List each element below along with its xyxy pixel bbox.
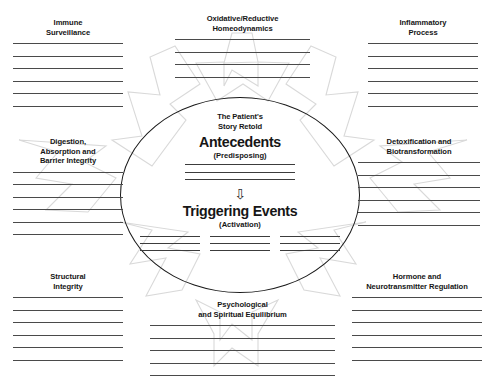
triggering-events-write-in-grid[interactable] xyxy=(120,236,360,257)
write-in-line[interactable] xyxy=(175,39,310,40)
write-in-line[interactable] xyxy=(368,43,478,44)
node-hormone-and-neurotransmitter-regulation: Hormone and Neurotransmitter Regulation xyxy=(352,272,482,361)
write-in-line[interactable] xyxy=(175,64,310,65)
node-title: Hormone and Neurotransmitter Regulation xyxy=(352,272,482,291)
write-in-line[interactable] xyxy=(358,225,480,226)
center-heading-triggering-events: Triggering Events xyxy=(120,203,360,219)
write-in-line[interactable] xyxy=(185,179,295,180)
write-in-line[interactable] xyxy=(13,234,123,235)
node-write-in-lines[interactable] xyxy=(175,39,310,78)
node-title: Structural Integrity xyxy=(13,272,123,291)
write-in-line[interactable] xyxy=(140,243,200,244)
write-in-line[interactable] xyxy=(352,297,482,298)
center-content: The Patient's Story Retold Antecedents (… xyxy=(120,97,360,293)
write-in-line[interactable] xyxy=(150,363,335,364)
center-subheading-activation: (Activation) xyxy=(120,220,360,229)
write-in-line[interactable] xyxy=(150,350,335,351)
write-in-line[interactable] xyxy=(358,212,480,213)
node-title: Oxidative/Reductive Homeodynamics xyxy=(175,14,310,33)
node-inflammatory-process: Inflammatory Process xyxy=(368,18,478,107)
write-in-line[interactable] xyxy=(140,236,200,237)
node-immune-surveillance: Immune Surveillance xyxy=(13,18,123,107)
node-title: Detoxification and Biotransformation xyxy=(358,137,480,156)
center-eyebrow-line2: Story Retold xyxy=(120,122,360,132)
write-in-line[interactable] xyxy=(13,360,123,361)
node-write-in-lines[interactable] xyxy=(13,297,123,361)
node-write-in-lines[interactable] xyxy=(358,162,480,226)
write-in-line[interactable] xyxy=(185,172,295,173)
node-title: Digestion, Absorption and Barrier Integr… xyxy=(13,137,123,166)
write-in-line[interactable] xyxy=(13,222,123,223)
write-in-line[interactable] xyxy=(13,335,123,336)
node-structural-integrity: Structural Integrity xyxy=(13,272,123,361)
write-in-line[interactable] xyxy=(368,93,478,94)
write-in-line[interactable] xyxy=(280,243,340,244)
node-title: Immune Surveillance xyxy=(13,18,123,37)
write-in-line[interactable] xyxy=(13,322,123,323)
write-in-line[interactable] xyxy=(13,172,123,173)
write-in-line[interactable] xyxy=(352,335,482,336)
write-in-line[interactable] xyxy=(358,200,480,201)
write-in-line[interactable] xyxy=(210,243,270,244)
write-in-line[interactable] xyxy=(368,68,478,69)
write-in-line[interactable] xyxy=(13,68,123,69)
write-in-line[interactable] xyxy=(368,81,478,82)
center-heading-antecedents: Antecedents xyxy=(120,134,360,150)
antecedents-write-in-lines[interactable] xyxy=(185,164,295,180)
center-eyebrow-line1: The Patient's xyxy=(120,112,360,122)
write-in-line[interactable] xyxy=(352,322,482,323)
write-in-line[interactable] xyxy=(175,52,310,53)
node-oxidative-reductive-homeodynamics: Oxidative/Reductive Homeodynamics xyxy=(175,14,310,78)
node-write-in-lines[interactable] xyxy=(13,43,123,107)
write-in-line[interactable] xyxy=(210,250,270,251)
write-in-line[interactable] xyxy=(140,250,200,251)
write-in-line[interactable] xyxy=(185,164,295,165)
write-in-line[interactable] xyxy=(352,310,482,311)
functional-medicine-matrix-worksheet: The Patient's Story Retold Antecedents (… xyxy=(0,0,485,384)
write-in-line[interactable] xyxy=(13,297,123,298)
triggering-column[interactable] xyxy=(210,236,270,257)
write-in-line[interactable] xyxy=(13,184,123,185)
write-in-line[interactable] xyxy=(150,325,335,326)
write-in-line[interactable] xyxy=(13,197,123,198)
write-in-line[interactable] xyxy=(280,236,340,237)
write-in-line[interactable] xyxy=(175,77,310,78)
node-write-in-lines[interactable] xyxy=(13,172,123,236)
write-in-line[interactable] xyxy=(358,175,480,176)
triggering-column[interactable] xyxy=(280,236,340,257)
write-in-line[interactable] xyxy=(150,375,335,376)
write-in-line[interactable] xyxy=(280,250,340,251)
node-write-in-lines[interactable] xyxy=(368,43,478,107)
node-write-in-lines[interactable] xyxy=(352,297,482,361)
node-title: Inflammatory Process xyxy=(368,18,478,37)
write-in-line[interactable] xyxy=(368,56,478,57)
write-in-line[interactable] xyxy=(352,360,482,361)
triggering-column[interactable] xyxy=(140,236,200,257)
write-in-line[interactable] xyxy=(13,81,123,82)
write-in-line[interactable] xyxy=(13,43,123,44)
write-in-line[interactable] xyxy=(13,93,123,94)
write-in-line[interactable] xyxy=(368,106,478,107)
write-in-line[interactable] xyxy=(210,236,270,237)
write-in-line[interactable] xyxy=(358,162,480,163)
write-in-line[interactable] xyxy=(150,338,335,339)
write-in-line[interactable] xyxy=(13,56,123,57)
write-in-line[interactable] xyxy=(13,347,123,348)
write-in-line[interactable] xyxy=(358,187,480,188)
node-title: Psychological and Spiritual Equilibrium xyxy=(150,300,335,319)
write-in-line[interactable] xyxy=(13,310,123,311)
write-in-line[interactable] xyxy=(13,106,123,107)
node-digestion-absorption-barrier-integrity: Digestion, Absorption and Barrier Integr… xyxy=(13,137,123,235)
write-in-line[interactable] xyxy=(352,347,482,348)
center-subheading-predisposing: (Predisposing) xyxy=(120,151,360,160)
node-write-in-lines[interactable] xyxy=(150,325,335,376)
node-detoxification-and-biotransformation: Detoxification and Biotransformation xyxy=(358,137,480,226)
node-psychological-and-spiritual-equilibrium: Psychological and Spiritual Equilibrium xyxy=(150,300,335,376)
down-arrow-icon: ⇩ xyxy=(120,187,360,201)
write-in-line[interactable] xyxy=(13,209,123,210)
